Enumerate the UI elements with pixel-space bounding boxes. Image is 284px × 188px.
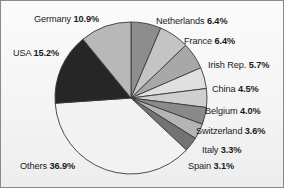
slice-label-switzerland-pct: 3.6%	[245, 126, 266, 136]
slice-label-germany-name: Germany	[34, 14, 71, 24]
pie-chart-screenshot: Germany 10.9% Netherlands 6.4% France 6.…	[0, 0, 284, 188]
slice-label-italy-name: Italy	[202, 145, 218, 155]
slice-label-china: China 4.5%	[212, 84, 259, 95]
slice-label-usa-name: USA	[13, 48, 31, 58]
slice-label-china-pct: 4.5%	[238, 84, 259, 94]
slice-label-spain: Spain 3.1%	[188, 161, 234, 172]
slice-label-switzerland-name: Switzerland	[196, 126, 242, 136]
slice-label-belgium-name: Belgium	[205, 106, 238, 116]
slice-label-netherlands-name: Netherlands	[156, 16, 204, 26]
slice-label-france: France 6.4%	[184, 36, 235, 47]
slice-label-france-pct: 6.4%	[214, 36, 235, 46]
slice-label-others-pct: 36.9%	[49, 161, 75, 171]
slice-label-germany: Germany 10.9%	[34, 14, 99, 25]
slice-label-irish-rep-name: Irish Rep.	[208, 60, 246, 70]
slice-label-netherlands-pct: 6.4%	[207, 16, 228, 26]
slice-label-belgium: Belgium 4.0%	[205, 106, 261, 117]
slice-label-usa-pct: 15.2%	[34, 48, 60, 58]
slice-label-italy: Italy 3.3%	[202, 145, 241, 156]
slice-label-netherlands: Netherlands 6.4%	[156, 16, 227, 27]
slice-label-spain-pct: 3.1%	[213, 161, 234, 171]
slice-label-belgium-pct: 4.0%	[240, 106, 261, 116]
slice-label-spain-name: Spain	[188, 161, 211, 171]
slice-label-germany-pct: 10.9%	[74, 14, 100, 24]
slice-label-irish-rep: Irish Rep. 5.7%	[208, 60, 269, 71]
slice-label-italy-pct: 3.3%	[221, 145, 242, 155]
slice-label-switzerland: Switzerland 3.6%	[196, 126, 265, 137]
slice-label-irish-rep-pct: 5.7%	[249, 60, 270, 70]
slice-label-usa: USA 15.2%	[13, 48, 59, 59]
slice-label-others: Others 36.9%	[20, 161, 75, 172]
slice-label-france-name: France	[184, 36, 212, 46]
slice-label-china-name: China	[212, 84, 236, 94]
slice-label-others-name: Others	[20, 161, 47, 171]
